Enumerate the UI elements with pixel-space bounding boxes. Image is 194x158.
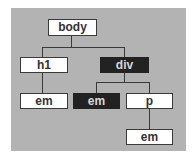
connector-div-down	[124, 73, 125, 82]
connector-h1-to-em	[42, 73, 43, 93]
connector-to-h1	[42, 47, 43, 57]
connector-body-horizontal	[42, 47, 125, 48]
node-h1: h1	[20, 57, 68, 73]
connector-to-div	[124, 47, 125, 57]
node-p: p	[126, 93, 173, 109]
node-body: body	[48, 19, 97, 36]
connector-div-horizontal	[96, 82, 150, 83]
node-div: div	[100, 57, 149, 73]
connector-p-to-em	[149, 109, 150, 129]
connector-to-em2	[96, 82, 97, 93]
connector-to-p	[149, 82, 150, 93]
node-em-h1-child: em	[20, 93, 68, 109]
node-em-p-child: em	[126, 129, 173, 145]
node-em-div-child: em	[73, 93, 120, 109]
connector-body-down	[71, 36, 72, 47]
